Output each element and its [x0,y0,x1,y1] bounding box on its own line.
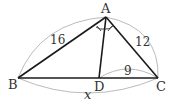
bisector-ad [99,17,106,78]
length-dc: 9 [124,64,132,78]
angle-mark-bad [96,27,104,29]
label-d: D [94,79,104,94]
label-c: C [156,79,166,94]
label-a: A [100,1,111,16]
length-ac: 12 [135,35,150,49]
side-ab [18,17,106,78]
length-bc: x [84,87,92,100]
length-ab: 16 [50,33,65,47]
triangle-diagram: A B D C 16 12 9 x [0,0,174,100]
label-b: B [8,77,18,92]
